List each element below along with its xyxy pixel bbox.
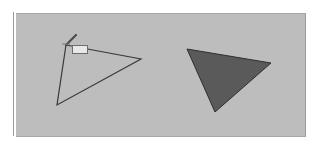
filled-triangle[interactable] [187,49,271,112]
pen-icon [62,35,76,45]
outline-triangle[interactable] [57,45,141,105]
shapes-layer [0,0,316,144]
cursor-tooltip [72,45,88,54]
drawing-app-window [0,0,316,144]
